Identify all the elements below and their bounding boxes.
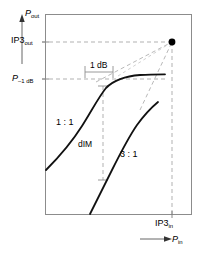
x-axis-label: Pin <box>172 235 183 244</box>
annotation-one-db: 1 dB <box>90 61 108 70</box>
y-tick-label-p-1db: P–1 dB <box>12 74 34 83</box>
annotation-slope-intermod: 3 : 1 <box>120 150 138 159</box>
annotation-slope-fundamental: 1 : 1 <box>56 118 74 127</box>
x-tick-label-ip3-in: IP3in <box>155 219 173 228</box>
ip3-point-marker <box>169 39 176 46</box>
ip3-compression-figure: Pout IP3out P–1 dB 1 dB 1 : 1 dIM 3 : 1 … <box>0 0 204 256</box>
y-axis-label: Pout <box>25 9 39 18</box>
y-tick-label-ip3-out: IP3out <box>11 36 33 45</box>
annotation-delta-im: dIM <box>78 140 92 149</box>
x-axis-arrow <box>140 236 172 241</box>
plot-frame <box>46 15 192 215</box>
